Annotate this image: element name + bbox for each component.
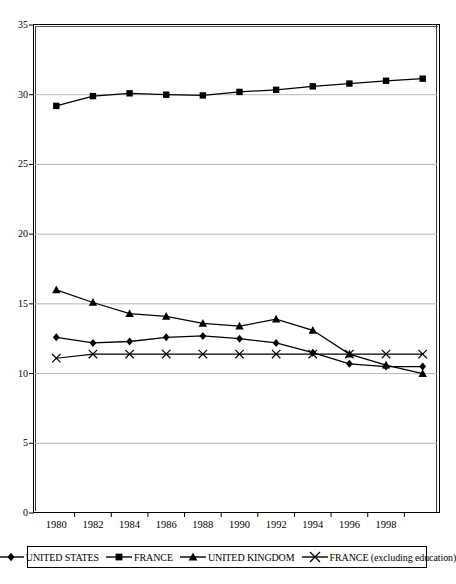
x-axis-tick-label: 1982 — [73, 519, 113, 531]
legend-label: UNITED STATES — [26, 552, 99, 563]
series-united-kingdom — [52, 286, 427, 377]
x-axis-ticks — [75, 513, 405, 517]
x-axis-tick-label: 1994 — [293, 519, 333, 531]
x-axis-tick-label: 1980 — [36, 519, 76, 531]
figure-caption — [40, 575, 440, 584]
diamond-marker-icon — [0, 551, 24, 563]
x-axis-tick-label: 1996 — [329, 519, 369, 531]
x-axis-tick-label: 1984 — [110, 519, 150, 531]
x-axis-tick-label: 1998 — [366, 519, 406, 531]
legend-item-united-states[interactable]: UNITED STATES — [0, 551, 99, 563]
x-axis: 1980198219841986198819901992199419961998 — [0, 519, 452, 535]
cross-marker-icon — [302, 551, 328, 563]
series-france — [53, 75, 426, 109]
legend-label: FRANCE (excluding education) — [330, 552, 456, 563]
series-united-states — [53, 332, 426, 371]
legend-item-united-kingdom[interactable]: UNITED KINGDOM — [180, 551, 295, 563]
data-series-layer — [52, 75, 427, 376]
x-axis-tick-label: 1990 — [220, 519, 260, 531]
square-marker-icon — [106, 551, 132, 563]
x-axis-tick-label: 1992 — [256, 519, 296, 531]
x-axis-tick-label: 1986 — [146, 519, 186, 531]
x-axis-tick-label: 1988 — [183, 519, 223, 531]
triangle-marker-icon — [180, 551, 206, 563]
legend-label: FRANCE — [134, 552, 173, 563]
legend-item-france[interactable]: FRANCE — [106, 551, 173, 563]
legend-item-france-excluding-education[interactable]: FRANCE (excluding education) — [302, 551, 456, 563]
legend-label: UNITED KINGDOM — [208, 552, 295, 563]
chart-legend: UNITED STATESFRANCEUNITED KINGDOMFRANCE … — [27, 546, 427, 568]
